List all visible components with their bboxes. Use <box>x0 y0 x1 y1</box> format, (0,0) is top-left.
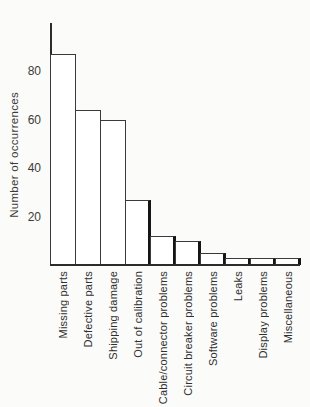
category-label-slot: Software problems <box>200 271 226 366</box>
category-label-slot: Leaks <box>225 271 251 301</box>
category-label-slot: Missing parts <box>50 271 76 338</box>
category-label: Defective parts <box>82 271 94 347</box>
y-axis-tick: 40 <box>0 161 41 175</box>
y-axis-tick: 80 <box>0 64 41 78</box>
x-axis-line <box>50 264 300 266</box>
category-label: Shipping damage <box>107 271 119 360</box>
bar <box>75 110 101 265</box>
category-label: Cable/connector problems <box>157 271 169 404</box>
category-label-slot: Display problems <box>250 271 276 359</box>
category-labels-row: Missing partsDefective partsShipping dam… <box>50 271 310 407</box>
y-axis-tick: 60 <box>0 113 41 127</box>
category-label: Display problems <box>257 271 269 359</box>
bar <box>125 200 151 265</box>
bar <box>175 241 201 265</box>
category-label-slot: Defective parts <box>75 271 101 347</box>
bars-row <box>50 23 310 265</box>
category-label: Software problems <box>207 271 219 366</box>
bar <box>150 236 176 265</box>
category-label-slot: Cable/connector problems <box>150 271 176 404</box>
category-label-slot: Shipping damage <box>100 271 126 360</box>
category-label-slot: Circuit breaker problems <box>175 271 201 396</box>
bar <box>50 54 76 265</box>
category-label: Circuit breaker problems <box>182 271 194 396</box>
y-axis-ticks: 20406080 <box>0 23 45 265</box>
category-label-slot: Out of calibration <box>125 271 151 358</box>
bar <box>100 120 126 265</box>
category-label: Missing parts <box>57 271 69 338</box>
y-axis-tick: 20 <box>0 210 41 224</box>
category-label-slot: Miscellaneous <box>275 271 301 343</box>
pareto-chart-figure: Number of occurrences 20406080 Missing p… <box>0 0 310 407</box>
category-label: Miscellaneous <box>282 271 294 343</box>
category-label: Leaks <box>232 271 244 301</box>
category-label: Out of calibration <box>132 271 144 358</box>
